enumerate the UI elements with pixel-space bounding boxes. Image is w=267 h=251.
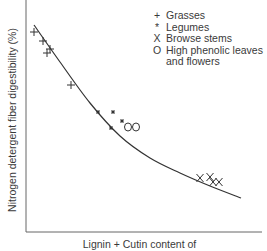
- data-point: [39, 37, 47, 45]
- data-point: [210, 178, 217, 186]
- data-point: [216, 178, 223, 186]
- circle-marker-icon: O: [148, 45, 166, 57]
- legend-label: Grasses: [166, 10, 205, 22]
- legend-item-grasses: + Grasses: [148, 10, 263, 22]
- data-point: [111, 110, 115, 114]
- legend-item-high-phenolic: O High phenolic leaves and flowers: [148, 45, 263, 68]
- legend-label: High phenolic leaves and flowers: [166, 45, 263, 68]
- data-point: [109, 126, 113, 130]
- x-axis-label: Lignin + Cutin content of: [0, 238, 267, 250]
- data-point: [125, 123, 132, 131]
- legend-label: Browse stems: [166, 33, 232, 45]
- y-axis-label: Nitrogen detergent fiber digestibility (…: [6, 28, 18, 212]
- data-point: [120, 119, 124, 123]
- data-point: [96, 110, 100, 114]
- x-marker-icon: X: [148, 33, 166, 45]
- legend-item-browse-stems: X Browse stems: [148, 33, 263, 45]
- data-point: [197, 174, 204, 182]
- data-point: [207, 173, 214, 181]
- data-point: [133, 123, 140, 131]
- legend: + Grasses * Legumes X Browse stems O Hig…: [148, 10, 263, 68]
- plus-marker-icon: +: [148, 10, 166, 22]
